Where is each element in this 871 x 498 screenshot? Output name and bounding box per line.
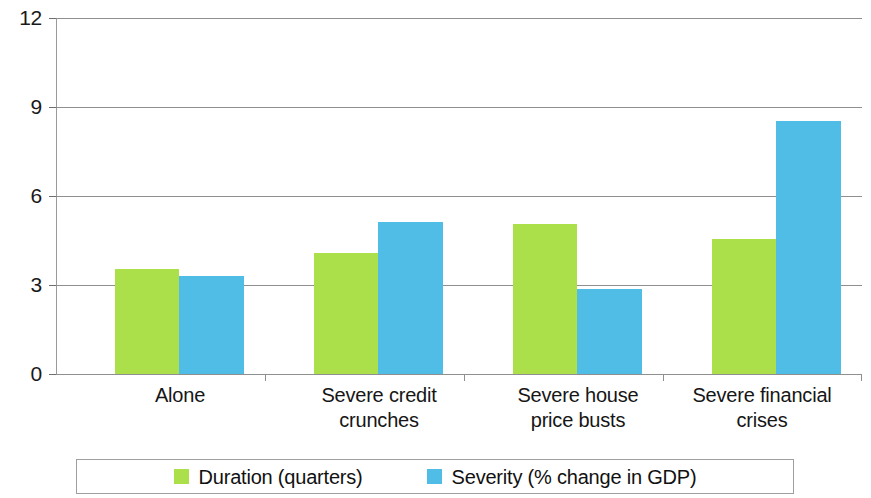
x-label-alone: Alone	[80, 383, 280, 408]
bar-severe-house-price-busts-severity	[577, 289, 642, 374]
x-label-severe-credit-crunches: Severe credit crunches	[279, 383, 479, 433]
x-axis-tick-3	[861, 374, 862, 381]
y-tick-label-3: 3	[2, 274, 42, 295]
plot-area	[56, 18, 862, 374]
bar-alone-duration	[115, 269, 179, 374]
bar-alone-severity	[179, 276, 244, 374]
gridline-9	[56, 107, 862, 108]
green-swatch-icon	[174, 469, 189, 484]
x-label-severe-financial-crises: Severe financial crises	[662, 383, 862, 433]
y-tick-label-0: 0	[2, 363, 42, 384]
x-axis-tick-2	[663, 374, 664, 381]
gridline-baseline-0	[56, 374, 862, 375]
bar-chart-figure: 12 9 6 3 0 Alone Severe c	[0, 0, 871, 498]
legend-label-severity: Severity (% change in GDP)	[452, 467, 697, 487]
bar-severe-credit-crunches-duration	[314, 253, 378, 374]
bar-severe-credit-crunches-severity	[378, 222, 443, 374]
x-axis-tick-1	[464, 374, 465, 381]
chart-legend: Duration (quarters) Severity (% change i…	[76, 459, 794, 494]
blue-swatch-icon	[427, 469, 442, 484]
x-axis-labels: Alone Severe credit crunches Severe hous…	[56, 383, 862, 445]
y-tick-label-9: 9	[2, 96, 42, 117]
legend-entry-severity: Severity (% change in GDP)	[427, 467, 697, 487]
y-tick-label-12: 12	[2, 7, 42, 28]
x-axis-tick-0	[265, 374, 266, 381]
x-label-severe-house-price-busts: Severe house price busts	[478, 383, 678, 433]
bar-severe-financial-crises-duration	[712, 239, 776, 374]
legend-entry-duration: Duration (quarters)	[174, 467, 363, 487]
y-tick-label-6: 6	[2, 185, 42, 206]
bar-severe-financial-crises-severity	[776, 121, 841, 374]
gridline-6	[56, 196, 862, 197]
y-axis-labels: 12 9 6 3 0	[0, 0, 42, 498]
bar-severe-house-price-busts-duration	[513, 224, 577, 374]
gridline-12	[56, 18, 862, 19]
legend-label-duration: Duration (quarters)	[199, 467, 363, 487]
